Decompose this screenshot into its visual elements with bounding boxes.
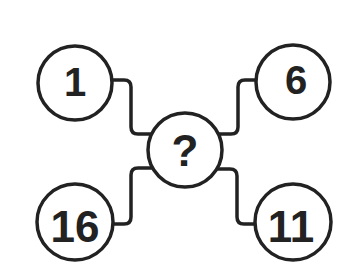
connector-top-right <box>218 80 256 134</box>
node-number: 11 <box>268 202 315 251</box>
node-bottom-left: 16 <box>37 184 113 260</box>
node-number: 6 <box>285 58 307 102</box>
node-top-right: 6 <box>256 45 330 119</box>
node-number: 16 <box>51 202 100 251</box>
node-center-unknown: ? <box>148 113 222 187</box>
connector-bottom-right <box>218 169 255 224</box>
question-mark-icon: ? <box>172 126 199 175</box>
node-bottom-right: 11 <box>255 184 331 260</box>
node-number: 1 <box>64 60 86 104</box>
connector-top-left <box>112 80 152 134</box>
puzzle-diagram: 1 6 16 11 ? <box>0 0 345 269</box>
connector-bottom-left <box>113 168 152 224</box>
node-top-left: 1 <box>38 46 112 120</box>
